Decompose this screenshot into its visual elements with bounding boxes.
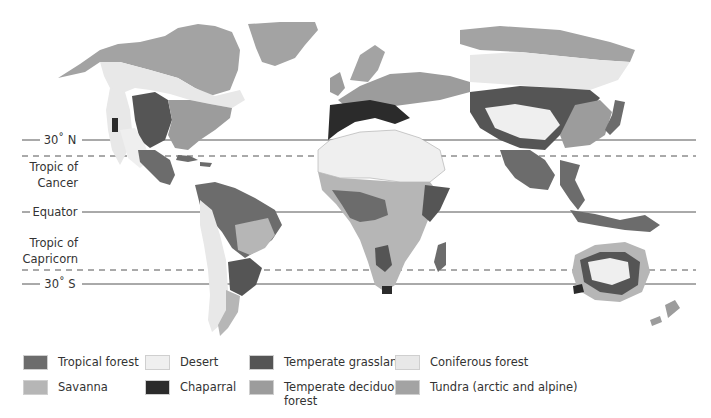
europe <box>328 45 470 140</box>
swatch-temperate-deciduous-forest <box>249 380 274 395</box>
central-america <box>138 150 175 185</box>
label-tropic-capricorn-line1: Tropic of <box>0 236 78 250</box>
indonesia <box>570 210 660 232</box>
na-deciduous <box>168 100 232 150</box>
legend-label: Temperate deciduous forest <box>284 380 408 408</box>
swatch-coniferous-forest <box>395 355 420 370</box>
legend-item-temperate-deciduous-forest: Temperate deciduous forest <box>249 380 408 408</box>
scandinavia <box>350 45 385 82</box>
legend-item-tundra: Tundra (arctic and alpine) <box>395 380 577 395</box>
world-biome-map <box>0 0 711 340</box>
legend-item-temperate-grassland: Temperate grassland <box>249 355 405 370</box>
greenland <box>248 22 318 66</box>
swatch-chaparral <box>145 380 170 395</box>
label-tropic-cancer: Tropic of Cancer <box>0 160 78 190</box>
label-tropic-cancer-line1: Tropic of <box>0 160 78 174</box>
africa-east-grassland <box>422 185 450 222</box>
sa-grassland <box>228 258 262 296</box>
africa-chaparral <box>382 286 392 294</box>
legend-label: Tundra (arctic and alpine) <box>430 380 577 394</box>
british-isles <box>330 72 345 96</box>
label-tropic-capricorn-line2: Capricorn <box>0 252 78 266</box>
legend-label: Savanna <box>58 380 108 394</box>
africa-savanna <box>318 172 440 292</box>
legend-label: Desert <box>180 355 218 369</box>
swatch-temperate-grassland <box>249 355 274 370</box>
north-america <box>58 22 318 185</box>
label-30s: 30˚ S <box>40 277 80 291</box>
asia <box>460 26 660 232</box>
legend-label-line1: Temperate deciduous <box>284 380 408 394</box>
swatch-savanna <box>23 380 48 395</box>
caribbean <box>176 155 212 167</box>
na-chaparral <box>112 118 118 132</box>
se-asia-tropical <box>560 160 585 210</box>
south-america <box>195 182 282 336</box>
legend-item-coniferous-forest: Coniferous forest <box>395 355 528 370</box>
legend: Tropical forest Savanna Desert Chaparral… <box>0 345 711 418</box>
new-zealand <box>650 300 680 326</box>
legend-label-line2: forest <box>284 394 408 408</box>
legend-item-tropical-forest: Tropical forest <box>23 355 139 370</box>
label-tropic-capricorn: Tropic of Capricorn <box>0 236 78 266</box>
legend-item-savanna: Savanna <box>23 380 108 395</box>
legend-item-desert: Desert <box>145 355 218 370</box>
swatch-tropical-forest <box>23 355 48 370</box>
legend-label: Temperate grassland <box>284 355 405 369</box>
south-asia-tropical <box>500 150 555 190</box>
label-tropic-cancer-line2: Cancer <box>0 176 78 190</box>
label-equator: Equator <box>30 205 80 219</box>
madagascar <box>434 242 446 272</box>
legend-label: Coniferous forest <box>430 355 528 369</box>
legend-label: Chaparral <box>180 380 236 394</box>
legend-label: Tropical forest <box>58 355 139 369</box>
swatch-tundra <box>395 380 420 395</box>
africa-desert <box>318 130 445 182</box>
swatch-desert <box>145 355 170 370</box>
legend-item-chaparral: Chaparral <box>145 380 236 395</box>
label-30n: 30˚ N <box>40 133 80 147</box>
